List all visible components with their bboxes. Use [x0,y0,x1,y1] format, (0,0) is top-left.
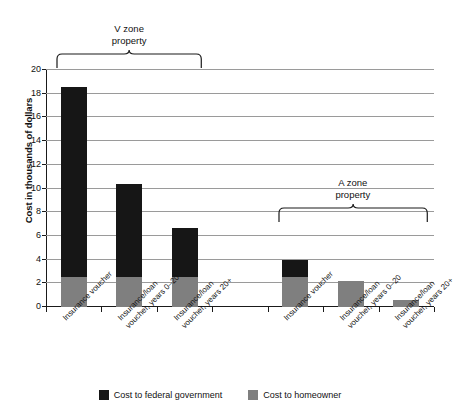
a-zone-property-brace-icon [278,203,428,223]
chart-legend: Cost to federal government Cost to homeo… [0,390,440,400]
y-tick-label-6: 6 [36,230,41,240]
gridline-20: 20 [46,69,434,70]
y-tick-label-2: 2 [36,277,41,287]
gridline-14: 14 [46,140,434,141]
x-axis-tick-5 [323,307,324,312]
y-tick-mark-10 [42,188,46,189]
a-zone-property-label-line1: A zone [293,177,413,189]
x-axis-tick-2 [157,307,158,312]
legend-item-homeowner: Cost to homeowner [248,390,341,400]
y-tick-label-16: 16 [31,111,41,121]
legend-item-government: Cost to federal government [99,390,223,400]
bar-0-segment-government[interactable] [61,87,87,278]
gridline-12: 12 [46,164,434,165]
x-axis-tick-1 [101,307,102,312]
y-tick-label-0: 0 [36,301,41,311]
gridline-16: 16 [46,116,434,117]
bar-0[interactable] [61,87,87,307]
y-tick-mark-6 [42,235,46,236]
x-axis-tick-4 [268,307,269,312]
y-tick-label-18: 18 [31,88,41,98]
x-axis-tick-6 [379,307,380,312]
y-tick-mark-4 [42,259,46,260]
y-tick-mark-2 [42,282,46,283]
bar-3-segment-government[interactable] [282,260,308,278]
a-zone-property-label-line2: property [293,189,413,201]
x-axis-tick-3 [212,307,213,312]
legend-label-homeowner: Cost to homeowner [263,390,341,400]
gridline-6: 6 [46,235,434,236]
a-zone-property-label: A zoneproperty [293,177,413,200]
y-tick-label-4: 4 [36,254,41,264]
x-axis-tick-7 [434,307,435,312]
v-zone-property-label-line2: property [69,35,189,47]
legend-label-government: Cost to federal government [114,390,223,400]
y-tick-mark-8 [42,211,46,212]
y-tick-label-12: 12 [31,159,41,169]
bar-1[interactable] [116,184,142,307]
y-tick-label-8: 8 [36,206,41,216]
x-axis-tick-0 [46,307,47,312]
y-tick-mark-12 [42,164,46,165]
y-tick-mark-20 [42,69,46,70]
bar-2-segment-government[interactable] [172,228,198,278]
gridline-18: 18 [46,93,434,94]
y-tick-label-14: 14 [31,135,41,145]
gridline-4: 4 [46,259,434,260]
v-zone-property-label-line1: V zone [69,23,189,35]
y-tick-mark-18 [42,93,46,94]
v-zone-property-label: V zoneproperty [69,23,189,46]
legend-swatch-government-icon [99,390,109,400]
v-zone-property-brace-icon [56,49,202,69]
bar-1-segment-government[interactable] [116,184,142,278]
y-tick-label-10: 10 [31,183,41,193]
legend-swatch-homeowner-icon [248,390,258,400]
y-tick-mark-16 [42,116,46,117]
y-tick-mark-14 [42,140,46,141]
y-tick-label-20: 20 [31,64,41,74]
